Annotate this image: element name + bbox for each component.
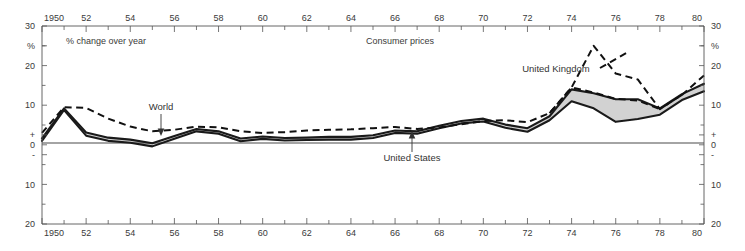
chart-svg: 1950525456586062646668707274767880 19505… xyxy=(0,0,745,251)
x-axis-label: 74 xyxy=(567,228,577,238)
y-axis-label: % xyxy=(711,41,719,51)
x-axis-labels-bottom: 1950525456586062646668707274767880 xyxy=(44,228,702,238)
x-axis-label: 52 xyxy=(81,228,91,238)
y-axis-label: 20 xyxy=(711,61,721,71)
plot-background xyxy=(42,26,704,224)
x-axis-label: 72 xyxy=(522,13,532,23)
series-label-united-kingdom: United Kingdom xyxy=(522,63,590,74)
chart-title: Consumer prices xyxy=(366,36,435,46)
x-axis-label: 1950 xyxy=(44,13,64,23)
x-axis-label: 76 xyxy=(611,13,621,23)
y-axis-label: 10 xyxy=(711,100,721,110)
x-axis-label: 68 xyxy=(434,228,444,238)
x-axis-label: 58 xyxy=(214,13,224,23)
y-axis-labels-left: 30%2010+0-1020 xyxy=(25,21,35,229)
x-axis-label: 80 xyxy=(692,228,702,238)
x-axis-label: 68 xyxy=(434,13,444,23)
y-axis-label: 20 xyxy=(25,61,35,71)
y-axis-label: 0 xyxy=(711,140,716,150)
y-axis-label: 30 xyxy=(711,21,721,31)
x-axis-label: 62 xyxy=(302,13,312,23)
x-axis-label: 54 xyxy=(125,13,135,23)
x-axis-label: 66 xyxy=(390,13,400,23)
x-axis-label: 58 xyxy=(214,228,224,238)
x-axis-label: 78 xyxy=(655,13,665,23)
x-axis-label: 80 xyxy=(692,13,702,23)
x-axis-label: 62 xyxy=(302,228,312,238)
x-axis-label: 64 xyxy=(346,13,356,23)
y-axis-label: 10 xyxy=(711,180,721,190)
y-axis-label: % xyxy=(27,41,35,51)
y-axis-label: 30 xyxy=(25,21,35,31)
y-axis-label: 10 xyxy=(25,100,35,110)
y-axis-label: - xyxy=(711,150,714,160)
x-axis-label: 74 xyxy=(567,13,577,23)
x-axis-label: 60 xyxy=(258,13,268,23)
y-axis-label: 0 xyxy=(30,140,35,150)
x-axis-label: 60 xyxy=(258,228,268,238)
x-axis-label: 78 xyxy=(655,228,665,238)
y-axis-label: + xyxy=(30,130,35,140)
y-axis-labels-right: 30%2010+0-1020 xyxy=(711,21,721,229)
x-axis-label: 64 xyxy=(346,228,356,238)
x-axis-label: 66 xyxy=(390,228,400,238)
x-axis-label: 70 xyxy=(478,13,488,23)
x-axis-label: 54 xyxy=(125,228,135,238)
y-axis-label: + xyxy=(711,130,716,140)
x-axis-label: 70 xyxy=(478,228,488,238)
y-axis-label: - xyxy=(32,150,35,160)
x-axis-labels-top: 1950525456586062646668707274767880 xyxy=(44,13,702,23)
x-axis-label: 1950 xyxy=(44,228,64,238)
y-axis-label: 20 xyxy=(711,219,721,229)
series-label-united-states: United States xyxy=(383,152,440,163)
chart-subtitle: % change over year xyxy=(66,36,146,46)
x-axis-label: 76 xyxy=(611,228,621,238)
x-axis-label: 56 xyxy=(169,13,179,23)
series-label-world: World xyxy=(149,101,174,112)
x-axis-label: 52 xyxy=(81,13,91,23)
consumer-prices-chart: 1950525456586062646668707274767880 19505… xyxy=(0,0,745,251)
x-axis-label: 56 xyxy=(169,228,179,238)
x-axis-label: 72 xyxy=(522,228,532,238)
y-axis-label: 20 xyxy=(25,219,35,229)
y-axis-label: 10 xyxy=(25,180,35,190)
